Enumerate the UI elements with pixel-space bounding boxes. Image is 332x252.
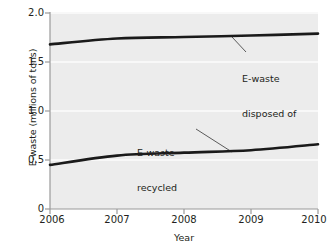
y-tick-label-0: 0 <box>16 204 44 214</box>
x-tick-label-2009: 2009 <box>229 215 273 225</box>
annotation-recycled-line1: E-waste <box>137 147 177 159</box>
y-tick-label-2-0: 2.0 <box>16 8 44 18</box>
y-axis-ticks <box>45 13 50 209</box>
x-tick-label-2006: 2006 <box>30 215 74 225</box>
annotation-e-waste-disposed-of: E-waste disposed of <box>242 50 296 142</box>
annotation-e-waste-recycled: E-waste recycled <box>137 124 177 216</box>
x-tick-label-2010: 2010 <box>292 215 332 225</box>
annotation-disposed-line2: disposed of <box>242 108 296 120</box>
x-tick-label-2008: 2008 <box>162 215 206 225</box>
annotation-disposed-line1: E-waste <box>242 73 296 85</box>
x-axis-tick-labels: 2006 2007 2008 2009 2010 <box>0 215 332 229</box>
annotation-recycled-line2: recycled <box>137 182 177 194</box>
y-axis-title: E-waste (millions of tons) <box>27 18 38 198</box>
x-axis-title: Year <box>50 232 318 243</box>
x-tick-label-2007: 2007 <box>95 215 139 225</box>
chart-figure: 2.0 1.5 1.0 0.5 0 2006 2007 2008 2009 20… <box>0 0 332 252</box>
